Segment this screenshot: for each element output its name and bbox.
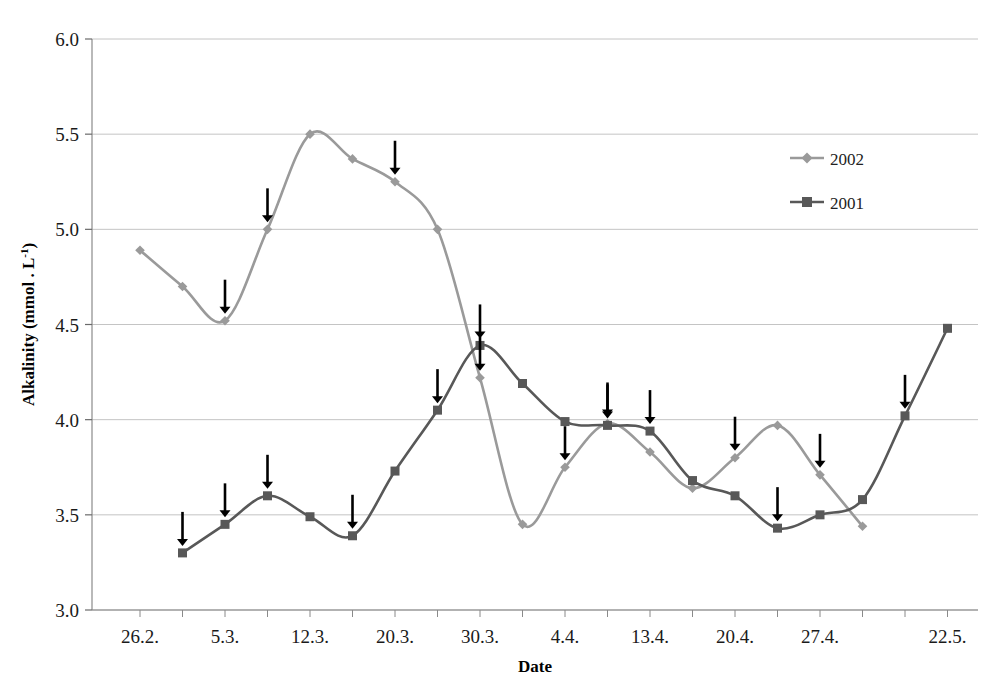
x-tick-label-6: 13.4. [631, 626, 669, 647]
y-axis-title-main: Alkalinity (mmol . L [19, 258, 38, 406]
x-tick-label-1: 5.3. [211, 626, 240, 647]
y-tick-label-4.0: 4.0 [55, 410, 79, 431]
marker-2001-12 [688, 476, 697, 485]
chart-container: 6.05.55.04.54.03.53.0 26.2.5.3.12.3.20.3… [0, 0, 1004, 687]
down-arrow-icon [432, 369, 443, 403]
down-arrow-icon [475, 304, 486, 338]
y-axis-title-tail: ) [19, 243, 38, 249]
x-tick-label-8: 27.4. [801, 626, 839, 647]
series-2002 [135, 129, 867, 531]
marker-2001-16 [858, 495, 867, 504]
y-tick-label-6.0: 6.0 [55, 29, 79, 50]
legend-entry-2001[interactable]: 2001 [790, 194, 864, 213]
marker-2001-13 [731, 491, 740, 500]
arrow-head [347, 522, 358, 529]
legend-entry-2002[interactable]: 2002 [790, 150, 864, 169]
x-tick-marks-group [140, 610, 948, 617]
down-arrow-icon [177, 512, 188, 546]
down-arrow-icon [772, 487, 783, 521]
down-arrow-icon [220, 483, 231, 517]
marker-2001-3 [306, 512, 315, 521]
arrow-head [815, 461, 826, 468]
y-tick-label-4.5: 4.5 [55, 315, 79, 336]
y-tick-label-5.5: 5.5 [55, 124, 79, 145]
marker-2001-6 [433, 406, 442, 415]
y-tick-label-5.0: 5.0 [55, 219, 79, 240]
legend: 20022001 [790, 150, 864, 213]
legend-marker-2002 [802, 153, 813, 164]
arrow-head [602, 411, 613, 418]
x-axis-title: Date [518, 657, 552, 676]
down-arrow-icon [602, 384, 613, 418]
down-arrow-icon [390, 141, 401, 175]
marker-2001-18 [943, 324, 952, 333]
down-arrow-icon [262, 455, 273, 489]
y-tick-label-3.0: 3.0 [55, 600, 79, 621]
arrow-head [560, 453, 571, 460]
arrow-head [262, 482, 273, 489]
x-tick-label-7: 20.4. [716, 626, 754, 647]
marker-2002-8 [475, 373, 485, 383]
marker-2002-3 [263, 225, 273, 235]
marker-2001-14 [773, 524, 782, 533]
marker-2001-17 [901, 411, 910, 420]
alkalinity-line-chart: 6.05.55.04.54.03.53.0 26.2.5.3.12.3.20.3… [0, 0, 1004, 687]
down-arrow-icon [262, 188, 273, 222]
down-arrow-icon [347, 495, 358, 529]
marker-2002-15 [773, 421, 783, 431]
marker-2001-15 [816, 510, 825, 519]
marker-2001-11 [646, 427, 655, 436]
x-tick-label-4: 30.3. [461, 626, 499, 647]
marker-2001-4 [348, 531, 357, 540]
arrow-head [475, 331, 486, 338]
arrow-head [177, 539, 188, 546]
down-arrow-icon [560, 426, 571, 460]
down-arrow-icon [900, 375, 911, 409]
marker-2001-2 [263, 491, 272, 500]
series-line-2002 [140, 131, 863, 527]
arrow-head [645, 417, 656, 424]
down-arrow-icon [815, 434, 826, 468]
marker-2002-7 [433, 225, 443, 235]
marker-2001-0 [178, 548, 187, 557]
marker-2001-1 [221, 520, 230, 529]
down-arrow-icon [220, 280, 231, 314]
x-tick-label-2: 12.3. [291, 626, 329, 647]
y-tick-label-3.5: 3.5 [55, 505, 79, 526]
arrow-head [220, 307, 231, 314]
y-axis-title: Alkalinity (mmol . L-1) [18, 243, 38, 406]
legend-label-2002: 2002 [830, 150, 864, 169]
marker-2001-10 [603, 421, 612, 430]
y-tick-labels-group: 6.05.55.04.54.03.53.0 [55, 29, 79, 621]
arrow-head [390, 168, 401, 175]
marker-2001-5 [391, 467, 400, 476]
x-tick-label-9: 22.5. [929, 626, 967, 647]
marker-2001-9 [561, 417, 570, 426]
x-tick-label-5: 4.4. [551, 626, 580, 647]
legend-marker-2001 [802, 197, 812, 207]
y-tick-marks-group [85, 39, 92, 610]
down-arrow-icon [645, 390, 656, 424]
arrow-head [730, 444, 741, 451]
arrow-head [772, 514, 783, 521]
x-tick-label-0: 26.2. [121, 626, 159, 647]
marker-2001-8 [518, 379, 527, 388]
arrow-head [220, 510, 231, 517]
x-tick-labels-group: 26.2.5.3.12.3.20.3.30.3.4.4.13.4.20.4.27… [121, 626, 967, 647]
y-axis-title-superscript: -1 [18, 249, 30, 258]
legend-label-2001: 2001 [830, 194, 864, 213]
down-arrow-icon [730, 417, 741, 451]
x-tick-label-3: 20.3. [376, 626, 414, 647]
axis-titles-group: DateAlkalinity (mmol . L-1) [18, 243, 552, 676]
